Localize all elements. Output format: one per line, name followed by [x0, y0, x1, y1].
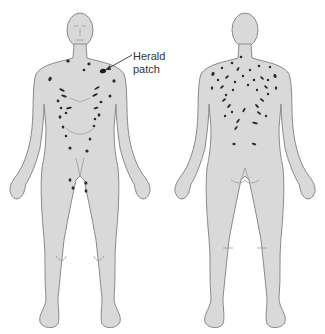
herald-label-line2: patch: [133, 63, 165, 76]
herald-label-line1: Herald: [133, 50, 165, 63]
herald-patch-label: Herald patch: [133, 50, 165, 76]
front-body-figure: [10, 13, 150, 328]
back-body-figure: [175, 13, 315, 328]
diagram-canvas: Herald patch: [0, 0, 325, 334]
